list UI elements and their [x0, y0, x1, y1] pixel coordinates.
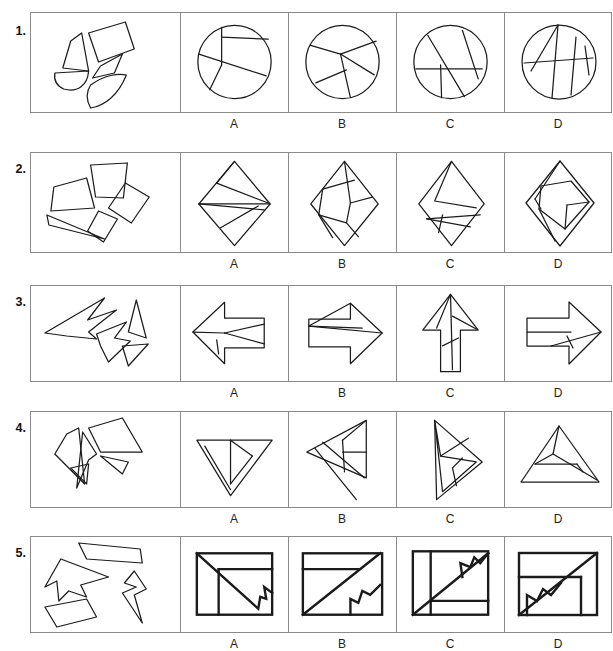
- row-4-grid: [30, 411, 612, 508]
- row-5-option-d[interactable]: [505, 537, 613, 632]
- puzzle-row-1: 1.: [0, 12, 613, 140]
- row-5-option-c[interactable]: [397, 537, 505, 632]
- row-3-label-a: A: [180, 386, 288, 400]
- row-3-option-d[interactable]: [505, 286, 613, 381]
- row-3-option-labels: A B C D: [180, 386, 612, 400]
- row-number-1: 1.: [2, 24, 26, 38]
- row-3-label-b: B: [288, 386, 396, 400]
- row-3-label-c: C: [396, 386, 504, 400]
- row-5-option-b[interactable]: [289, 537, 397, 632]
- row-5-label-c: C: [396, 637, 504, 651]
- row-3-option-b[interactable]: [289, 286, 397, 381]
- row-4-option-a[interactable]: [181, 412, 289, 507]
- row-4-label-b: B: [288, 512, 396, 526]
- row-5-label-d: D: [504, 637, 612, 651]
- row-number-2: 2.: [2, 162, 26, 176]
- worksheet-sheet: 1.: [0, 0, 613, 651]
- row-1-option-d[interactable]: [505, 13, 613, 112]
- row-2-grid: [30, 152, 612, 253]
- row-4-label-c: C: [396, 512, 504, 526]
- row-1-pieces-panel[interactable]: [31, 13, 181, 112]
- row-3-pieces-panel[interactable]: [31, 286, 181, 381]
- row-3-label-d: D: [504, 386, 612, 400]
- puzzle-row-4: 4.: [0, 411, 613, 539]
- row-1-grid: [30, 12, 612, 113]
- row-1-label-c: C: [396, 117, 504, 131]
- row-4-option-labels: A B C D: [180, 512, 612, 526]
- row-2-option-c[interactable]: [397, 153, 505, 252]
- row-5-label-a: A: [180, 637, 288, 651]
- row-1-option-b[interactable]: [289, 13, 397, 112]
- row-1-option-a[interactable]: [181, 13, 289, 112]
- puzzle-row-3: 3.: [0, 285, 613, 413]
- row-number-5: 5.: [2, 546, 26, 560]
- row-3-option-a[interactable]: [181, 286, 289, 381]
- row-2-pieces-panel[interactable]: [31, 153, 181, 252]
- row-3-grid: [30, 285, 612, 382]
- row-5-option-labels: A B C D: [180, 637, 612, 651]
- row-2-label-c: C: [396, 257, 504, 271]
- row-number-3: 3.: [2, 295, 26, 309]
- row-4-label-d: D: [504, 512, 612, 526]
- row-5-pieces-panel[interactable]: [31, 537, 181, 632]
- row-4-option-d[interactable]: [505, 412, 613, 507]
- row-4-option-b[interactable]: [289, 412, 397, 507]
- row-2-option-d[interactable]: [505, 153, 613, 252]
- row-2-label-d: D: [504, 257, 612, 271]
- puzzle-row-5: 5.: [0, 536, 613, 651]
- row-5-grid: [30, 536, 612, 633]
- row-2-label-b: B: [288, 257, 396, 271]
- row-2-option-b[interactable]: [289, 153, 397, 252]
- row-1-label-b: B: [288, 117, 396, 131]
- row-2-label-a: A: [180, 257, 288, 271]
- puzzle-row-2: 2.: [0, 152, 613, 280]
- row-number-4: 4.: [2, 421, 26, 435]
- row-2-option-a[interactable]: [181, 153, 289, 252]
- row-5-option-a[interactable]: [181, 537, 289, 632]
- row-4-pieces-panel[interactable]: [31, 412, 181, 507]
- row-1-option-labels: A B C D: [180, 117, 612, 131]
- row-1-label-a: A: [180, 117, 288, 131]
- row-3-option-c[interactable]: [397, 286, 505, 381]
- row-4-label-a: A: [180, 512, 288, 526]
- row-4-option-c[interactable]: [397, 412, 505, 507]
- row-1-label-d: D: [504, 117, 612, 131]
- row-2-option-labels: A B C D: [180, 257, 612, 271]
- row-5-label-b: B: [288, 637, 396, 651]
- row-1-option-c[interactable]: [397, 13, 505, 112]
